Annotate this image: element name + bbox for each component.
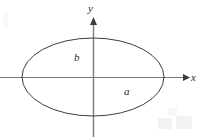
x-axis-label: x xyxy=(191,72,196,83)
figure-canvas xyxy=(0,0,201,137)
ellipse-figure: y x b a xyxy=(0,0,201,137)
semi-minor-axis-label: b xyxy=(74,52,80,63)
semi-major-axis-label: a xyxy=(124,86,130,97)
y-axis-arrowhead xyxy=(90,17,97,25)
y-axis-label: y xyxy=(88,3,93,14)
x-axis-arrowhead xyxy=(183,74,190,81)
